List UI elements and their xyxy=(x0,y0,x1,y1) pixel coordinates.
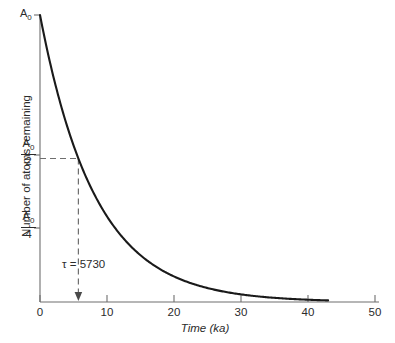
x-tick-label-30: 30 xyxy=(221,307,261,319)
half-life-arrow-icon xyxy=(75,292,83,301)
y-label-a0: A0 xyxy=(20,8,32,22)
x-tick-label-40: 40 xyxy=(288,307,328,319)
x-tick-label-20: 20 xyxy=(154,307,194,319)
chart-plot-area xyxy=(0,0,395,343)
y-axis-title: Number of atoms remaining xyxy=(20,71,32,261)
half-life-annotation-label: τ = 5730 xyxy=(62,258,105,270)
decay-chart-figure: A0 A0 2 A0 4 τ = 5730 0 10 20 30 40 50 T… xyxy=(0,0,395,343)
x-tick-label-10: 10 xyxy=(87,307,127,319)
x-tick-label-0: 0 xyxy=(20,307,60,319)
x-axis-title: Time (ka) xyxy=(150,322,260,334)
x-tick-label-50: 50 xyxy=(355,307,395,319)
